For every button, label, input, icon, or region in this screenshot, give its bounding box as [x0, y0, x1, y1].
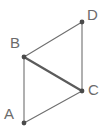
vertex-point-d: [80, 20, 85, 25]
vertex-point-c: [80, 89, 85, 94]
vertex-point-b: [22, 55, 27, 60]
edge-b-d: [24, 22, 82, 57]
edge-b-c-diagonal: [24, 57, 82, 91]
edge-a-c: [24, 91, 82, 123]
geometry-figure: A B C D: [0, 0, 108, 135]
vertex-label-d: D: [87, 7, 98, 22]
vertex-label-a: A: [4, 106, 14, 121]
vertex-label-b: B: [10, 35, 20, 50]
vertex-point-a: [22, 121, 27, 126]
vertex-label-c: C: [88, 82, 99, 97]
